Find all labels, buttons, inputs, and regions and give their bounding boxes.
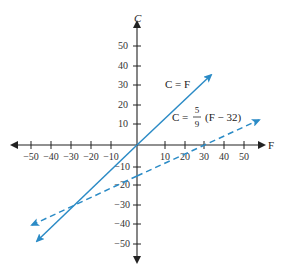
x-tick-label: −50 xyxy=(23,151,39,162)
line2-denominator: 9 xyxy=(195,119,200,129)
y-tick-label: 50 xyxy=(118,40,128,51)
line2-prefix: C = xyxy=(172,111,188,123)
y-tick-label: 30 xyxy=(118,79,128,90)
x-tick-label: −20 xyxy=(83,151,99,162)
chart: C F −50 −40 −30 −20 −10 10 20 30 40 50 5… xyxy=(0,0,283,277)
y-tick-label: 10 xyxy=(118,118,128,129)
line1-equation-label: C = F xyxy=(165,78,190,90)
y-tick-label: −10 xyxy=(114,161,130,172)
x-tick-label: 40 xyxy=(219,151,229,162)
y-tick-label: −40 xyxy=(114,218,130,229)
y-tick-label: −30 xyxy=(114,199,130,210)
y-tick-label: −50 xyxy=(114,238,130,249)
x-tick-labels: −50 −40 −30 −20 −10 10 20 30 40 50 xyxy=(23,151,249,162)
line2-equation-label: C = 5 9 (F − 32) xyxy=(172,105,241,129)
x-tick-label: 50 xyxy=(239,151,249,162)
x-tick-label: 10 xyxy=(160,151,170,162)
y-tick-label: 40 xyxy=(118,60,128,71)
series-c-from-f-dashed xyxy=(32,120,259,225)
x-tick-label: −30 xyxy=(63,151,79,162)
x-axis-label: F xyxy=(268,139,274,151)
line2-suffix: (F − 32) xyxy=(205,111,241,124)
x-tick-label: 30 xyxy=(199,151,209,162)
x-tick-label: 20 xyxy=(180,151,190,162)
x-tick-label: −40 xyxy=(43,151,59,162)
line2-numerator: 5 xyxy=(195,105,200,115)
y-axis-label: C xyxy=(134,12,142,24)
y-tick-label: 20 xyxy=(118,99,128,110)
